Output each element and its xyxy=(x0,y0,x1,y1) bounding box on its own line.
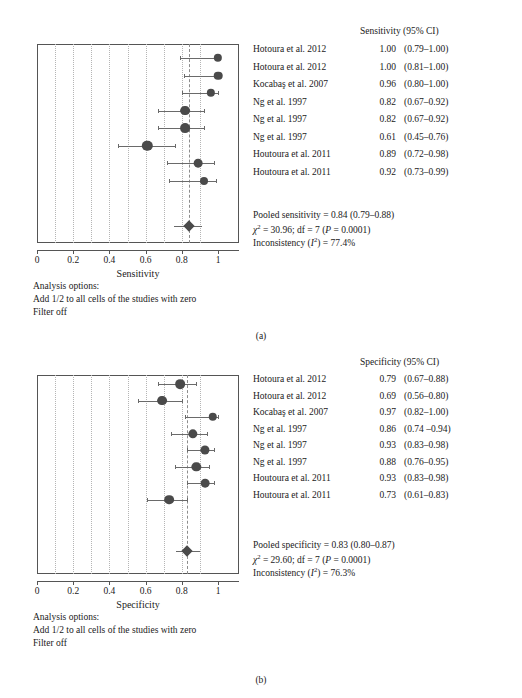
confidence-interval-line xyxy=(169,181,216,182)
study-confidence-interval: (0.56–0.80) xyxy=(404,391,448,401)
gridline xyxy=(55,375,56,574)
confidence-interval-cap xyxy=(180,56,181,60)
x-axis-tick-label: 0.2 xyxy=(67,586,79,596)
confidence-interval-cap xyxy=(214,481,215,485)
confidence-interval-cap xyxy=(218,91,219,95)
study-label: Kocabaş et al. 2007 xyxy=(253,79,328,89)
study-estimate: 1.00 xyxy=(370,44,396,54)
confidence-interval-cap xyxy=(171,432,172,436)
study-estimate: 0.69 xyxy=(370,391,396,401)
x-axis-tick xyxy=(109,250,110,254)
x-axis-tick-label: 0 xyxy=(35,255,40,265)
x-axis-tick xyxy=(73,250,74,254)
panel-b-column-header: Specificity (95% CI) xyxy=(360,357,439,367)
study-estimate: 0.93 xyxy=(370,473,396,483)
study-label: Houtoura et al. 2011 xyxy=(253,149,331,159)
confidence-interval-cap xyxy=(182,399,183,403)
study-confidence-interval: (0.74 –0.94) xyxy=(404,424,451,434)
cut-off-caption xyxy=(0,692,522,698)
confidence-interval-cap xyxy=(158,382,159,386)
panel-b-label: (b) xyxy=(255,675,266,685)
x-axis-tick-label: 0.4 xyxy=(103,255,115,265)
gridline xyxy=(55,44,56,243)
study-marker xyxy=(175,379,185,389)
study-estimate: 0.82 xyxy=(370,97,396,107)
gridline xyxy=(164,44,165,243)
confidence-interval-line xyxy=(180,58,218,59)
study-label: Ng et al. 1997 xyxy=(253,440,307,450)
panel-a-label: (a) xyxy=(256,331,267,341)
confidence-interval-cap xyxy=(147,498,148,502)
confidence-interval-cap xyxy=(214,161,215,165)
gridline xyxy=(91,375,92,574)
study-confidence-interval: (0.67–0.92) xyxy=(404,114,448,124)
inconsistency-prefix: Inconsistency ( xyxy=(253,568,311,578)
panel-b-analysis-option-2: Filter off xyxy=(33,638,67,648)
study-estimate: 0.79 xyxy=(370,374,396,384)
study-marker xyxy=(157,396,167,406)
confidence-interval-cap xyxy=(218,415,219,419)
x-axis-line xyxy=(37,250,239,251)
confidence-interval-cap xyxy=(214,448,215,452)
study-estimate: 0.89 xyxy=(370,149,396,159)
inconsistency-value: ) = 76.3% xyxy=(317,568,355,578)
study-marker xyxy=(181,123,191,133)
x-axis-tick-label: 1 xyxy=(216,586,221,596)
gridline xyxy=(182,375,183,574)
study-confidence-interval: (0.73–0.99) xyxy=(404,167,448,177)
study-confidence-interval: (0.83–0.98) xyxy=(404,440,448,450)
panel-b-axis-title: Specificity xyxy=(116,599,159,610)
inconsistency-prefix: Inconsistency ( xyxy=(253,238,311,248)
study-estimate: 0.97 xyxy=(370,407,396,417)
x-axis-tick xyxy=(146,250,147,254)
inconsistency-value: ) = 77.4% xyxy=(317,238,355,248)
pooled-reference-line xyxy=(189,44,190,243)
x-axis-tick xyxy=(146,581,147,585)
x-axis-tick-label: 0.8 xyxy=(176,586,188,596)
x-axis-tick-label: 0.6 xyxy=(140,255,152,265)
study-estimate: 0.73 xyxy=(370,490,396,500)
confidence-interval-cap xyxy=(167,161,168,165)
pooled-reference-line xyxy=(187,375,188,574)
panel-a-plot-area xyxy=(37,44,239,243)
panel-b-analysis-option-1: Add 1/2 to all cells of the studies with… xyxy=(33,625,196,635)
study-label: Ng et al. 1997 xyxy=(253,424,307,434)
confidence-interval-cap xyxy=(175,465,176,469)
gridline xyxy=(200,375,201,574)
study-label: Ng et al. 1997 xyxy=(253,97,307,107)
confidence-interval-cap xyxy=(187,481,188,485)
x-axis-tick xyxy=(73,581,74,585)
study-label: Houtoura et al. 2011 xyxy=(253,167,331,177)
x-axis-line xyxy=(37,581,239,582)
panel-a-axis-title: Sensitivity xyxy=(117,268,160,279)
confidence-interval-cap xyxy=(185,415,186,419)
confidence-interval-cap xyxy=(187,448,188,452)
x-axis-tick xyxy=(109,581,110,585)
study-label: Ng et al. 1997 xyxy=(253,114,307,124)
panel-a-chi-square: χ2 = 30.96; df = 7 (P = 0.0001) xyxy=(253,223,371,235)
confidence-interval-cap xyxy=(204,126,205,130)
study-confidence-interval: (0.45–0.76) xyxy=(404,132,448,142)
study-label: Ng et al. 1997 xyxy=(253,132,307,142)
study-label: Hotoura et al. 2012 xyxy=(253,374,326,384)
gridline xyxy=(73,44,74,243)
study-confidence-interval: (0.72–0.98) xyxy=(404,149,448,159)
x-axis-tick xyxy=(218,250,219,254)
p-value: = 0.0001) xyxy=(331,225,370,235)
study-label: Kocabaş et al. 2007 xyxy=(253,407,328,417)
study-confidence-interval: (0.76–0.95) xyxy=(404,457,448,467)
study-confidence-interval: (0.80–1.00) xyxy=(404,79,448,89)
confidence-interval-cap xyxy=(184,74,185,78)
gridline xyxy=(109,44,110,243)
x-axis-tick xyxy=(37,250,38,254)
x-axis-tick xyxy=(182,250,183,254)
confidence-interval-cap xyxy=(187,498,188,502)
confidence-interval-cap xyxy=(196,382,197,386)
study-estimate: 0.86 xyxy=(370,424,396,434)
confidence-interval-line xyxy=(167,163,214,164)
study-confidence-interval: (0.67–0.92) xyxy=(404,97,448,107)
confidence-interval-cap xyxy=(138,399,139,403)
study-confidence-interval: (0.83–0.98) xyxy=(404,473,448,483)
gridline xyxy=(73,375,74,574)
study-marker xyxy=(214,71,223,80)
